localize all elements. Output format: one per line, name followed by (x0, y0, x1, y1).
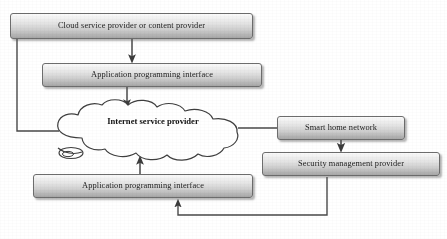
node-cloud-service-provider[interactable]: Cloud service provider or content provid… (10, 13, 253, 39)
node-label-cloud-service-provider: Cloud service provider or content provid… (54, 21, 209, 31)
node-security-management-provider[interactable]: Security management provider (262, 152, 440, 176)
node-smart-home-network[interactable]: Smart home network (277, 116, 405, 140)
node-api-top[interactable]: Application programming interface (42, 63, 262, 87)
node-label-smart-home-network: Smart home network (301, 123, 381, 133)
node-label-security-management-provider: Security management provider (294, 159, 408, 169)
node-label-internet-service-provider: Internet service provider (48, 116, 258, 128)
node-api-bottom[interactable]: Application programming interface (33, 174, 253, 198)
diagram-canvas: Internet service provider Cloud service … (0, 0, 447, 239)
node-internet-service-provider[interactable]: Internet service provider (48, 98, 258, 168)
node-label-api-bottom: Application programming interface (78, 181, 208, 191)
node-label-api-top: Application programming interface (87, 70, 217, 80)
cloud-shape-icon (48, 98, 258, 168)
